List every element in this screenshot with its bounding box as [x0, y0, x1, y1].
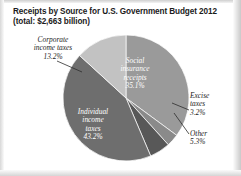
pie-label-corporate-income-taxes: Corporate income taxes 13.2%	[16, 36, 90, 61]
pie-label-individual-income-taxes: Individual income taxes 43.2%	[62, 108, 124, 142]
chart-title-line-2: (total: $2,663 billion)	[13, 17, 231, 27]
page-edge-top	[0, 0, 241, 3]
pie-label-social-insurance-receipts: Social insurance receipts 35.1%	[104, 57, 166, 91]
pie-label-excise-percent: 3.2%	[190, 109, 234, 117]
pie-label-corporate-percent: 13.2%	[16, 53, 90, 61]
pie-label-other: Other 5.3%	[190, 130, 234, 147]
chart-title-line-1: Receipts by Source for U.S. Government B…	[13, 7, 231, 17]
pie-label-excise-taxes: Excise taxes 3.2%	[190, 92, 234, 117]
pie-label-other-percent: 5.3%	[190, 138, 234, 146]
chart-title: Receipts by Source for U.S. Government B…	[13, 7, 231, 27]
pie-label-individual-percent: 43.2%	[62, 133, 124, 141]
page-edge-right	[233, 0, 241, 176]
page-edge-bottom	[0, 170, 241, 176]
pie-label-social-percent: 35.1%	[104, 82, 166, 90]
chart-figure: Receipts by Source for U.S. Government B…	[0, 0, 241, 176]
page-edge-left	[0, 0, 4, 176]
